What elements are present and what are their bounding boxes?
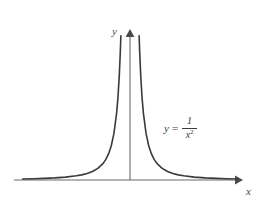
x-axis-arrowhead xyxy=(235,176,243,185)
curve-left-branch xyxy=(23,36,121,179)
y-axis-label: y xyxy=(112,26,117,37)
equation-annotation: y = 1 x2 xyxy=(164,116,197,140)
equation-equals-sign: = xyxy=(172,123,178,134)
equation-fraction: 1 x2 xyxy=(182,116,197,140)
denominator-exponent: 2 xyxy=(190,127,194,135)
figure-canvas: y x y = 1 x2 xyxy=(0,0,263,210)
curve-right-branch xyxy=(139,36,237,179)
y-axis-arrowhead xyxy=(126,29,135,37)
plot-svg xyxy=(0,0,263,210)
fraction-numerator: 1 xyxy=(184,116,195,127)
equation-left-side: y xyxy=(164,123,169,134)
fraction-denominator: x2 xyxy=(184,130,196,141)
x-axis-label: x xyxy=(246,186,251,197)
